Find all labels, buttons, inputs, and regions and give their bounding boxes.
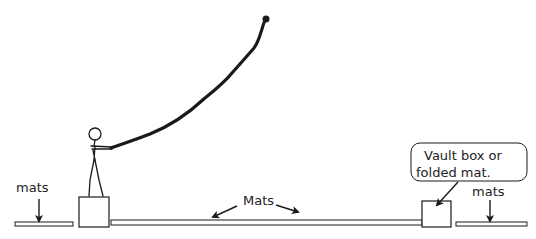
- rope: [111, 20, 265, 148]
- left-mats-label: mats: [16, 180, 49, 195]
- callout-line-1: Vault box or: [424, 148, 503, 163]
- stick-figure-neck: [94, 140, 95, 146]
- rope-swing-diagram: mats Mats Vault box or folded mat. mats: [0, 0, 536, 239]
- center-mats-arrow-left: [213, 206, 237, 217]
- left-mat: [15, 222, 73, 226]
- stick-figure: [89, 128, 112, 196]
- center-mat: [111, 220, 422, 225]
- right-mats-label: mats: [472, 184, 505, 199]
- stick-figure-legs: [89, 160, 103, 196]
- center-mats-label: Mats: [243, 193, 274, 208]
- right-mat: [456, 222, 527, 226]
- stick-figure-arms: [91, 146, 112, 149]
- stick-figure-head: [89, 128, 101, 140]
- right-box: [422, 201, 451, 227]
- center-mats-arrow-right: [276, 205, 298, 212]
- callout-line-2: folded mat.: [416, 165, 491, 180]
- stick-figure-body: [93, 146, 95, 160]
- rope-anchor-dot: [263, 16, 270, 23]
- left-box: [79, 197, 109, 227]
